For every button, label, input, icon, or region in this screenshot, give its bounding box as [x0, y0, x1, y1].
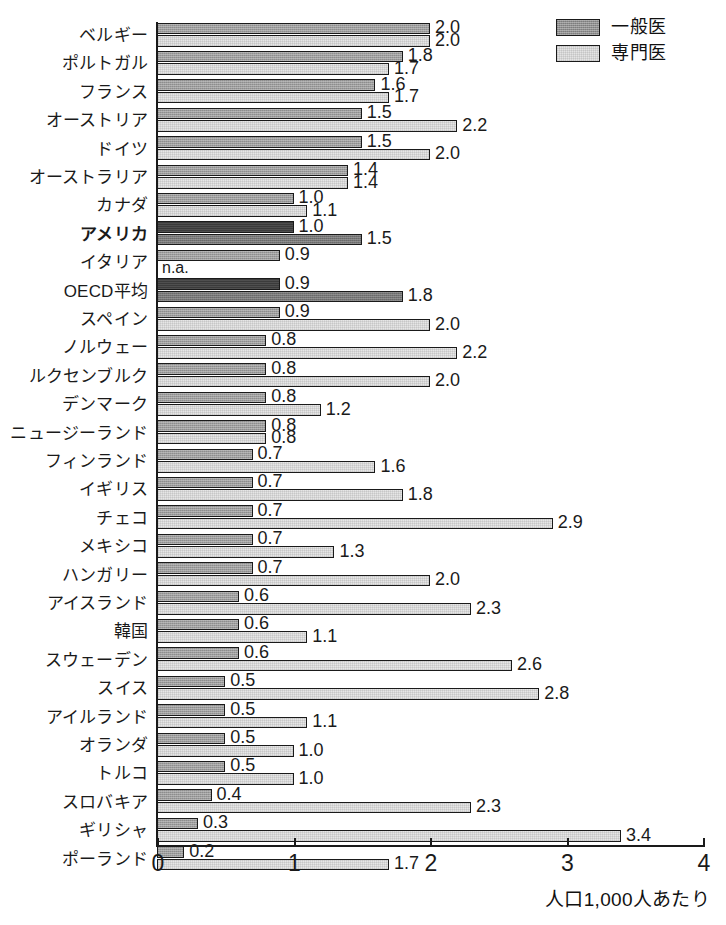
- category-label: チェコ: [0, 509, 148, 529]
- bar-sp: [157, 546, 334, 558]
- bar-value-gp: 0.5: [230, 760, 255, 772]
- bar-value-gp: 0.5: [230, 704, 255, 716]
- bar-sp: [157, 205, 307, 217]
- category-label: ポルトガル: [0, 54, 148, 74]
- bar-value-sp: 2.0: [435, 375, 460, 387]
- bar-value-sp: 1.7: [394, 63, 419, 75]
- category-label: オーストラリア: [0, 168, 148, 188]
- bar-row: ポーランド0.21.7: [0, 846, 726, 874]
- bar-value-gp: 0.7: [258, 476, 283, 488]
- bar-gp: [157, 363, 266, 375]
- bar-value-sp: 1.8: [408, 290, 433, 302]
- bar-row: デンマーク0.81.2: [0, 391, 726, 419]
- bar-value-sp: 1.3: [339, 546, 364, 558]
- category-label: トルコ: [0, 764, 148, 784]
- x-tick-label: 0: [152, 852, 165, 875]
- category-label: イタリア: [0, 253, 148, 273]
- bar-gp: [157, 307, 280, 319]
- category-label: スペイン: [0, 310, 148, 330]
- category-label: ベルギー: [0, 26, 148, 46]
- bar-gp: [157, 676, 225, 688]
- bar-value-sp: 2.0: [435, 574, 460, 586]
- bar-value-gp: 0.5: [230, 675, 255, 687]
- bar-value-sp: 1.0: [299, 773, 324, 785]
- category-label: ニュージーランド: [0, 424, 148, 444]
- bar-gp: [157, 420, 266, 432]
- bar-sp: [157, 35, 430, 47]
- bar-value-gp: 0.4: [217, 789, 242, 801]
- bar-row: メキシコ0.71.3: [0, 533, 726, 561]
- bar-gp: [157, 51, 403, 63]
- category-label: スウェーデン: [0, 651, 148, 671]
- bar-value-gp: 1.5: [367, 136, 392, 148]
- bar-value-gp: 0.2: [189, 846, 214, 858]
- bar-row: ポルトガル1.81.7: [0, 50, 726, 78]
- category-label: 韓国: [0, 622, 148, 642]
- bar-value-sp: 2.2: [462, 347, 487, 359]
- bar-gp: [157, 335, 266, 347]
- bar-gp: [157, 392, 266, 404]
- bar-gp: [157, 534, 253, 546]
- category-label: フィンランド: [0, 452, 148, 472]
- x-tick: [567, 838, 569, 847]
- x-tick-label: 3: [561, 852, 574, 875]
- bar-row: アメリカ1.01.5: [0, 221, 726, 249]
- bar-value-sp: 1.1: [312, 631, 337, 643]
- plot-area: ベルギー2.02.0ポルトガル1.81.7フランス1.61.7オーストリア1.5…: [0, 0, 726, 925]
- bar-row: イタリア0.9n.a.: [0, 249, 726, 277]
- bar-gp: [157, 165, 348, 177]
- category-label: オランダ: [0, 736, 148, 756]
- bar-gp: [157, 619, 239, 631]
- bar-row: ニュージーランド0.80.8: [0, 420, 726, 448]
- bar-gp: [157, 136, 362, 148]
- bar-value-gp: 0.7: [258, 448, 283, 460]
- bar-sp: [157, 859, 389, 871]
- bar-gp: [157, 647, 239, 659]
- category-label: OECD平均: [0, 282, 148, 302]
- bar-row: チェコ0.72.9: [0, 505, 726, 533]
- bar-gp: [157, 108, 362, 120]
- bar-value-gp: 0.7: [258, 533, 283, 545]
- bar-value-sp: 1.2: [326, 404, 351, 416]
- bar-row: スロバキア0.42.3: [0, 789, 726, 817]
- bar-sp: [157, 660, 512, 672]
- bar-gp: [157, 193, 294, 205]
- bar-value-gp: 0.3: [203, 817, 228, 829]
- bar-value-sp: 1.1: [312, 716, 337, 728]
- bar-row: ルクセンブルク0.82.0: [0, 363, 726, 391]
- bar-row: OECD平均0.91.8: [0, 278, 726, 306]
- category-label: スイス: [0, 679, 148, 699]
- bar-row: フィンランド0.71.6: [0, 448, 726, 476]
- bar-value-gp: 0.8: [271, 391, 296, 403]
- bar-value-gp: 0.7: [258, 562, 283, 574]
- bar-value-na: n.a.: [162, 261, 189, 275]
- bar-sp: [157, 433, 266, 445]
- bar-gp: [157, 278, 280, 290]
- bar-row: オーストラリア1.41.4: [0, 164, 726, 192]
- bar-row: ベルギー2.02.0: [0, 22, 726, 50]
- bar-sp: [157, 63, 389, 75]
- bar-value-gp: 1.5: [367, 107, 392, 119]
- category-label: アイスランド: [0, 594, 148, 614]
- bar-value-sp: 1.5: [367, 233, 392, 245]
- bar-value-sp: 1.8: [408, 489, 433, 501]
- bar-value-sp: 1.7: [394, 858, 419, 870]
- bar-row: トルコ0.51.0: [0, 760, 726, 788]
- bar-value-sp: 2.2: [462, 120, 487, 132]
- bar-value-gp: 0.6: [244, 618, 269, 630]
- category-label: ギリシャ: [0, 821, 148, 841]
- bar-value-sp: 1.6: [380, 461, 405, 473]
- bar-sp: [157, 149, 430, 161]
- bar-gp: [157, 733, 225, 745]
- bar-gp: [157, 818, 198, 830]
- bar-value-sp: 2.0: [435, 148, 460, 160]
- bar-row: オーストリア1.52.2: [0, 107, 726, 135]
- category-label: ドイツ: [0, 140, 148, 160]
- bar-row: スイス0.52.8: [0, 675, 726, 703]
- category-label: カナダ: [0, 196, 148, 216]
- bar-value-sp: 2.3: [476, 603, 501, 615]
- bar-value-gp: 0.6: [244, 647, 269, 659]
- bar-sp: [157, 518, 553, 530]
- bar-sp: [157, 234, 362, 246]
- bar-row: アイルランド0.51.1: [0, 704, 726, 732]
